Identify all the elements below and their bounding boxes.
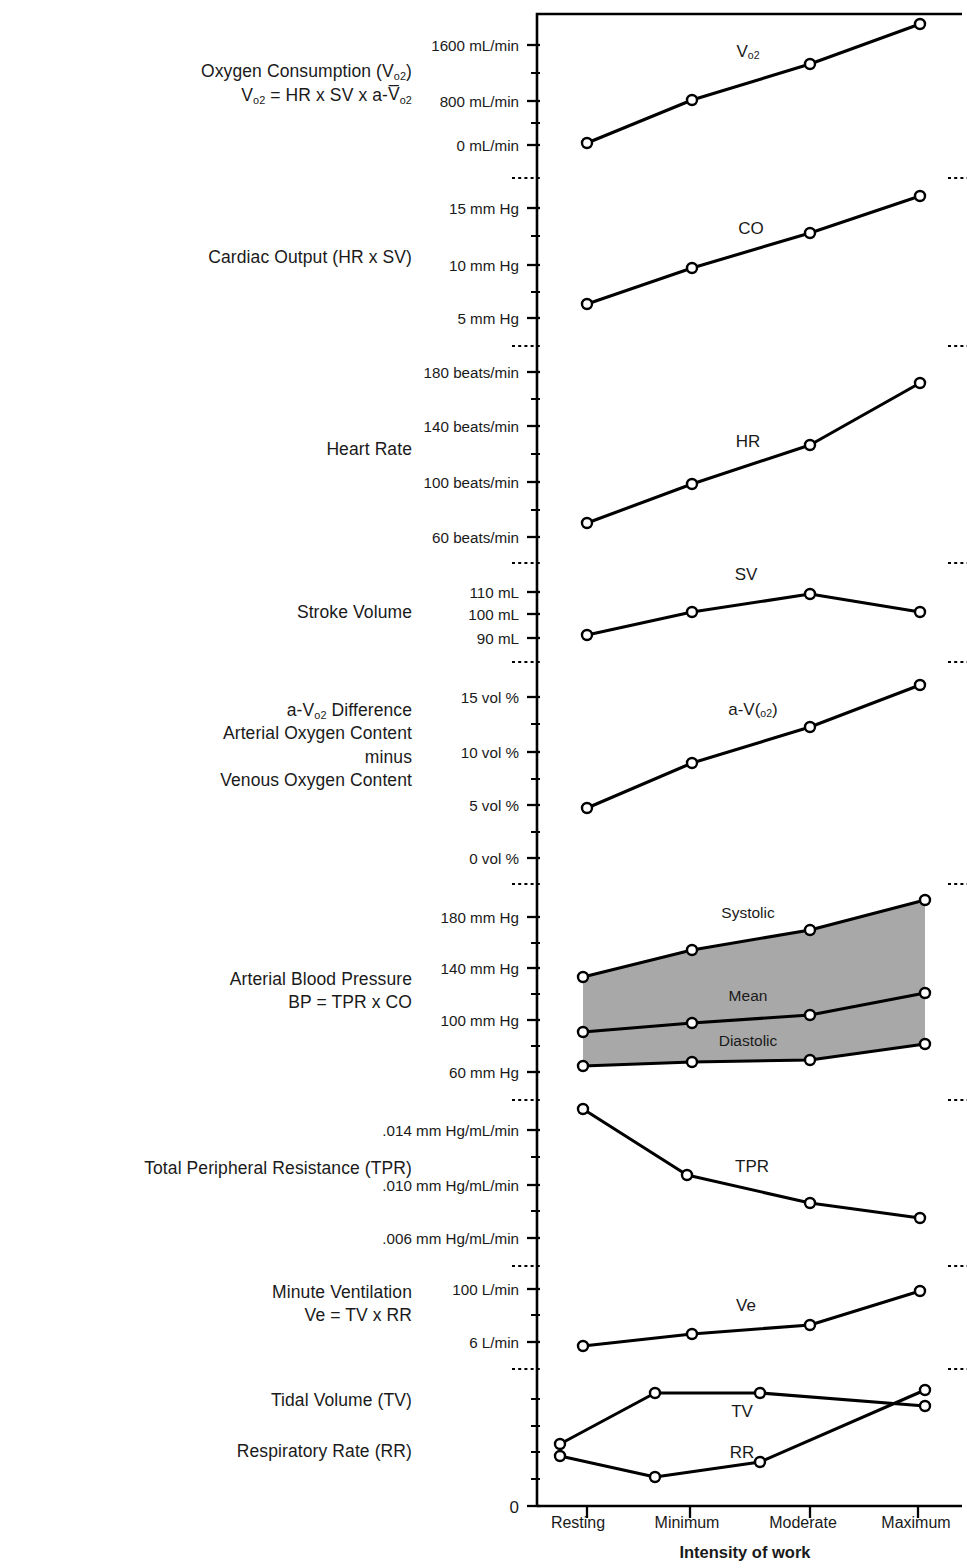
xtick-label-moderate: Moderate <box>769 1514 837 1531</box>
series-label-hr: HR <box>736 432 761 451</box>
ytick-label: .010 mm Hg/mL/min <box>382 1177 519 1194</box>
series-label-co: CO <box>738 219 764 238</box>
data-point <box>915 19 925 29</box>
data-point <box>650 1388 660 1398</box>
ytick-label: 0 vol % <box>469 850 519 867</box>
data-point <box>805 925 815 935</box>
data-point <box>920 895 930 905</box>
ytick-label: 1600 mL/min <box>431 37 519 54</box>
panel-avo2: 15 vol % 10 vol % 5 vol % 0 vol % a-V(o2… <box>461 680 925 867</box>
ytick-label: 100 mm Hg <box>441 1012 520 1029</box>
ytick-label: 100 beats/min <box>424 474 519 491</box>
ytick-label: 15 mm Hg <box>449 200 519 217</box>
data-point <box>920 1385 930 1395</box>
x-axis: Resting Minimum Moderate Maximum Intensi… <box>551 1506 951 1561</box>
data-point <box>682 1170 692 1180</box>
data-point <box>920 988 930 998</box>
data-point <box>650 1472 660 1482</box>
panel-co: 15 mm Hg 10 mm Hg 5 mm Hg CO <box>449 191 925 327</box>
data-point <box>805 440 815 450</box>
ytick-label: 110 mL <box>469 584 519 601</box>
ytick-label-zero: 0 <box>510 1498 519 1517</box>
series-line-co <box>587 196 920 304</box>
data-point <box>915 1213 925 1223</box>
data-point <box>805 1320 815 1330</box>
xtick-label-resting: Resting <box>551 1514 605 1531</box>
series-label-diastolic: Diastolic <box>719 1032 778 1049</box>
data-point <box>582 518 592 528</box>
data-point <box>805 1198 815 1208</box>
series-line-vo2 <box>587 24 920 143</box>
data-point <box>687 263 697 273</box>
data-point <box>555 1439 565 1449</box>
ytick-label: 140 beats/min <box>424 418 519 435</box>
data-point <box>805 59 815 69</box>
xtick-label-minimum: Minimum <box>655 1514 720 1531</box>
ytick-label: 15 vol % <box>461 689 519 706</box>
data-point <box>582 803 592 813</box>
ytick-label: 6 L/min <box>469 1334 519 1351</box>
series-label-tpr: TPR <box>735 1157 769 1176</box>
chart-canvas: 1600 mL/min 800 mL/min 0 mL/min Vo2 15 m… <box>0 0 967 1568</box>
ytick-label: .014 mm Hg/mL/min <box>382 1122 519 1139</box>
series-label-rr: RR <box>730 1443 755 1462</box>
panel-tvrr: 0 TV RR <box>510 1385 930 1517</box>
data-point <box>687 945 697 955</box>
data-point <box>915 378 925 388</box>
data-point <box>687 607 697 617</box>
ytick-label: 60 mm Hg <box>449 1064 519 1081</box>
data-point <box>555 1451 565 1461</box>
data-point <box>915 191 925 201</box>
data-point <box>805 589 815 599</box>
data-point <box>578 1061 588 1071</box>
data-point <box>687 95 697 105</box>
data-point <box>687 758 697 768</box>
data-point <box>578 1027 588 1037</box>
data-point <box>805 1055 815 1065</box>
ytick-label: 90 mL <box>477 630 519 647</box>
series-label-mean: Mean <box>729 987 768 1004</box>
ytick-label: 10 vol % <box>461 744 519 761</box>
panel-vo2: 1600 mL/min 800 mL/min 0 mL/min Vo2 <box>431 19 925 154</box>
panel-bp: 180 mm Hg 140 mm Hg 100 mm Hg 60 mm Hg S… <box>441 895 931 1081</box>
ytick-label: 5 vol % <box>469 797 519 814</box>
data-point <box>920 1039 930 1049</box>
data-point <box>582 299 592 309</box>
series-label-avo2: a-V(o2) <box>728 700 778 719</box>
ytick-label: 60 beats/min <box>432 529 519 546</box>
data-point <box>755 1457 765 1467</box>
data-point <box>578 972 588 982</box>
ytick-label: 800 mL/min <box>440 93 519 110</box>
data-point <box>805 722 815 732</box>
series-label-sv: SV <box>735 565 758 584</box>
ytick-label: 180 mm Hg <box>441 909 520 926</box>
data-point <box>915 1286 925 1296</box>
series-line-hr <box>587 383 920 523</box>
panel-ve: 100 L/min 6 L/min Ve <box>452 1281 925 1351</box>
series-label-systolic: Systolic <box>721 904 775 921</box>
series-label-ve: Ve <box>736 1296 756 1315</box>
data-point <box>578 1341 588 1351</box>
figure-root: Oxygen Consumption (Vo2) Vo2 = HR x SV x… <box>0 0 967 1568</box>
data-point <box>805 1010 815 1020</box>
data-point <box>687 479 697 489</box>
series-label-vo2: Vo2 <box>736 42 759 61</box>
data-point <box>687 1018 697 1028</box>
data-point <box>915 680 925 690</box>
series-label-tv: TV <box>731 1402 753 1421</box>
ytick-label: 10 mm Hg <box>449 257 519 274</box>
data-point <box>582 630 592 640</box>
ytick-label: 180 beats/min <box>424 364 519 381</box>
data-point <box>920 1401 930 1411</box>
series-line-sv <box>587 594 920 635</box>
ytick-label: 100 mL <box>468 606 519 623</box>
xtick-label-maximum: Maximum <box>881 1514 950 1531</box>
data-point <box>578 1104 588 1114</box>
data-point <box>687 1329 697 1339</box>
panel-tpr: .014 mm Hg/mL/min .010 mm Hg/mL/min .006… <box>382 1104 925 1247</box>
ytick-label: 5 mm Hg <box>457 310 519 327</box>
ytick-label: 100 L/min <box>452 1281 519 1298</box>
x-axis-title: Intensity of work <box>679 1543 811 1561</box>
data-point <box>915 607 925 617</box>
data-point <box>805 228 815 238</box>
